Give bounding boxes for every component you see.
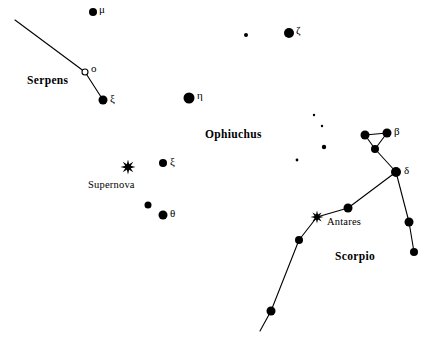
star-omicron-ser	[82, 69, 88, 75]
star-theta-oph	[159, 211, 168, 220]
star-faint-b	[313, 114, 315, 116]
star-label-xi-ser: ξ	[110, 93, 115, 104]
star-branch-end	[410, 248, 418, 256]
star-label-zeta-oph: ζ	[296, 25, 301, 36]
star-name-label-supernova: Supernova	[88, 180, 135, 191]
star-label-eta-oph: η	[197, 90, 203, 101]
star-label-beta-sco: β	[394, 126, 400, 137]
star-chart: μζοξηξθβδSerpensOphiuchusScorpioSupernov…	[0, 0, 431, 342]
star-label-delta-sco: δ	[404, 165, 409, 176]
star-sigma-sco	[344, 204, 353, 213]
star-branch-mid	[405, 218, 414, 227]
sky-canvas	[0, 0, 431, 342]
star-xi-oph	[159, 159, 167, 167]
star-beta-sco	[383, 129, 392, 138]
star-label-xi-oph: ξ	[170, 156, 175, 167]
star-faint-d	[322, 145, 326, 149]
star-faint-e	[296, 159, 299, 162]
star-beta-sco-s	[371, 145, 379, 153]
star-zeta-oph	[284, 28, 294, 38]
star-theta-up	[145, 202, 152, 209]
star-mu-oph	[89, 8, 97, 16]
constellation-label-scorpio: Scorpio	[335, 251, 375, 263]
constellation-label-serpens: Serpens	[27, 75, 68, 87]
constellation-line-serpens-chain	[15, 20, 103, 100]
constellation-lines-layer	[15, 20, 414, 331]
special-markers-layer	[121, 160, 324, 224]
star-delta-sco	[391, 167, 401, 177]
star-faint-a	[244, 33, 248, 37]
supernova-marker	[121, 160, 136, 175]
constellation-line-scorpio-delta-branch	[396, 172, 414, 252]
constellation-label-ophiuchus: Ophiuchus	[205, 129, 262, 141]
star-beta-sco-w	[361, 131, 370, 140]
star-label-omicron-ser: ο	[91, 63, 97, 74]
star-faint-c	[321, 125, 323, 127]
star-xi-ser	[99, 96, 108, 105]
star-eta-oph	[184, 93, 195, 104]
star-tail-b	[267, 307, 276, 316]
star-label-mu-oph: μ	[99, 4, 105, 15]
star-tail-a	[295, 236, 303, 244]
constellation-line-scorpio-body-tail	[260, 172, 396, 331]
star-name-label-antares: Antares	[327, 217, 361, 228]
star-label-theta-oph: θ	[170, 208, 175, 219]
stars-layer	[82, 8, 418, 316]
antares-marker	[311, 211, 324, 224]
